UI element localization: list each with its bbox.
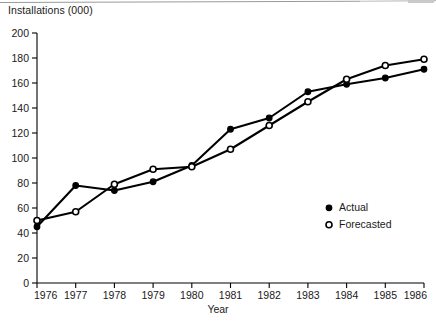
y-tick-label-group: 020406080100120140160180200 — [11, 27, 29, 289]
y-tick-label: 180 — [11, 52, 29, 64]
x-axis-title: Year — [0, 303, 436, 315]
data-point-actual — [112, 188, 118, 194]
x-tick-label: 1978 — [103, 289, 127, 301]
y-tick-label: 200 — [11, 27, 29, 39]
x-tick-label: 1977 — [64, 289, 88, 301]
line-chart: Installations (000) 02040608010012014016… — [0, 0, 436, 323]
data-point-actual — [266, 115, 272, 121]
data-point-actual — [34, 224, 40, 230]
data-point-actual — [73, 183, 79, 189]
data-point-actual — [305, 89, 311, 95]
x-tick-label: 1976 — [34, 289, 58, 301]
data-point-actual — [421, 66, 427, 72]
data-point-forecasted — [421, 56, 427, 62]
data-point-forecasted — [382, 63, 388, 69]
x-tick-label: 1984 — [335, 289, 359, 301]
x-tick-label: 1981 — [219, 289, 243, 301]
data-point-forecasted — [111, 181, 117, 187]
legend-marker-actual — [326, 205, 332, 211]
y-tick-label: 140 — [11, 102, 29, 114]
chart-legend: ActualForecasted — [326, 201, 392, 230]
y-tick-label: 100 — [11, 152, 29, 164]
data-point-actual — [383, 75, 389, 81]
x-tick-label: 1982 — [258, 289, 282, 301]
y-tick-label: 40 — [17, 227, 29, 239]
legend-marker-forecasted — [326, 222, 332, 228]
axis-group — [32, 33, 424, 288]
data-point-actual — [228, 126, 234, 132]
y-tick-label: 160 — [11, 77, 29, 89]
data-point-forecasted — [73, 209, 79, 215]
legend-label-forecasted: Forecasted — [339, 218, 392, 230]
chart-plot-area: 020406080100120140160180200 197619771978… — [0, 0, 436, 323]
series-line-forecasted — [37, 59, 424, 220]
y-tick-label: 80 — [17, 177, 29, 189]
legend-label-actual: Actual — [339, 201, 368, 213]
data-point-forecasted — [305, 99, 311, 105]
y-tick-label: 60 — [17, 202, 29, 214]
x-tick-label: 1983 — [296, 289, 320, 301]
data-point-forecasted — [189, 164, 195, 170]
data-point-forecasted — [34, 218, 40, 224]
data-point-forecasted — [150, 166, 156, 172]
x-tick-label: 1980 — [180, 289, 204, 301]
data-point-actual — [150, 179, 156, 185]
x-tick-label: 1986 — [404, 289, 428, 301]
data-point-forecasted — [266, 123, 272, 129]
y-tick-label: 120 — [11, 127, 29, 139]
data-point-forecasted — [228, 146, 234, 152]
y-tick-label: 20 — [17, 252, 29, 264]
x-tick-label: 1979 — [141, 289, 165, 301]
x-tick-label: 1985 — [374, 289, 398, 301]
y-tick-label: 0 — [23, 277, 29, 289]
data-point-forecasted — [344, 76, 350, 82]
x-tick-label-group: 1976197719781979198019811982198319841985… — [34, 289, 427, 301]
